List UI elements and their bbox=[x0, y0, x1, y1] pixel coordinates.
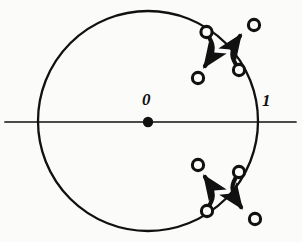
node-upper-left-on-circle bbox=[201, 26, 212, 37]
origin-label: 0 bbox=[142, 90, 151, 110]
node-upper-inward-target bbox=[192, 72, 203, 83]
unit-circle-diagram bbox=[0, 0, 302, 242]
node-upper-outward-target bbox=[248, 19, 259, 30]
node-lower-right-on-circle bbox=[233, 166, 244, 177]
node-lower-left-on-circle bbox=[201, 205, 212, 216]
origin-dot bbox=[143, 117, 153, 127]
node-lower-outward-target bbox=[249, 213, 260, 224]
figure-container: 0 1 bbox=[0, 0, 302, 242]
node-lower-inward-target bbox=[192, 159, 203, 170]
node-upper-right-on-circle bbox=[233, 64, 244, 75]
unit-label: 1 bbox=[262, 91, 271, 111]
